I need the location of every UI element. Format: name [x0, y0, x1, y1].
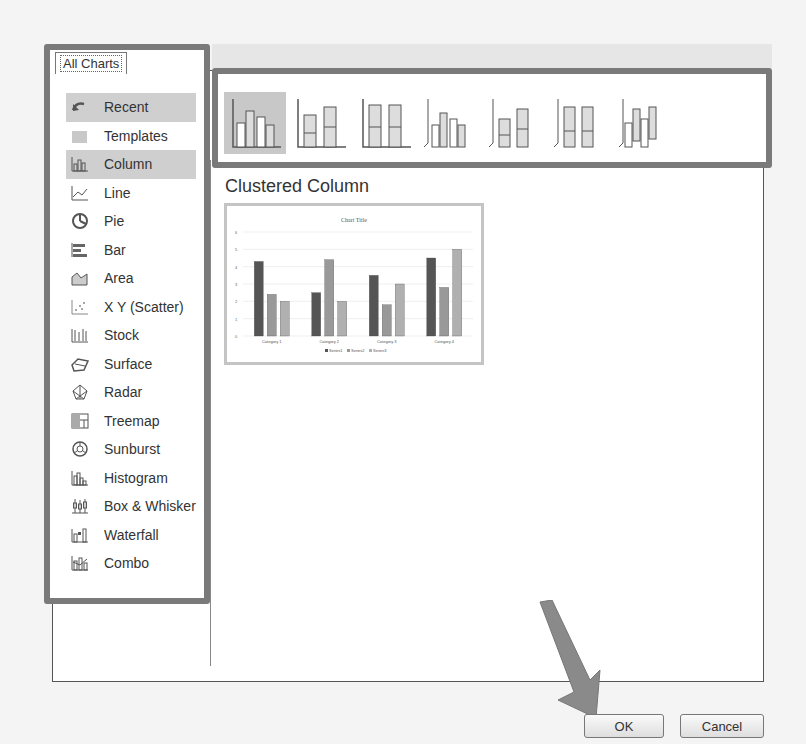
templates-icon	[70, 127, 90, 145]
sidebar-item-recent[interactable]: Recent	[66, 93, 196, 122]
sidebar-item-pie[interactable]: Pie	[66, 207, 196, 236]
svg-text:0: 0	[235, 334, 238, 339]
cancel-button[interactable]: Cancel	[680, 714, 764, 738]
sidebar-item-waterfall[interactable]: Waterfall	[66, 521, 196, 550]
svg-text:3: 3	[235, 282, 238, 287]
sidebar-item-label: Column	[104, 156, 152, 172]
sidebar-item-column[interactable]: Column	[66, 150, 196, 179]
chart-preview[interactable]: Chart Title0123456Category 1Category 2Ca…	[224, 203, 484, 365]
sidebar-item-sunburst[interactable]: Sunburst	[66, 435, 196, 464]
subtype-3d-stacked-column[interactable]	[484, 92, 546, 154]
svg-text:6: 6	[235, 230, 238, 235]
sidebar-item-templates[interactable]: Templates	[66, 122, 196, 151]
pie-chart-icon	[70, 212, 90, 230]
svg-text:Category 4: Category 4	[434, 339, 454, 344]
sidebar-item-label: Stock	[104, 327, 139, 343]
chart-category-list: RecentTemplatesColumnLinePieBarAreaX Y (…	[66, 93, 196, 578]
sidebar-item-label: Bar	[104, 242, 126, 258]
tab-all-charts[interactable]: All Charts	[55, 52, 127, 74]
recent-icon	[70, 98, 90, 116]
line-chart-icon	[70, 184, 90, 202]
svg-text:Chart Title: Chart Title	[341, 217, 367, 223]
svg-text:Series1: Series1	[329, 348, 343, 353]
3d-clustered-column-icon	[420, 93, 480, 153]
sidebar-item-treemap[interactable]: Treemap	[66, 407, 196, 436]
panel-divider	[210, 160, 211, 666]
sidebar-item-histogram[interactable]: Histogram	[66, 464, 196, 493]
sidebar-item-combo[interactable]: Combo	[66, 549, 196, 578]
svg-text:2: 2	[235, 299, 238, 304]
chart-preview-graphic: Chart Title0123456Category 1Category 2Ca…	[227, 206, 481, 362]
3d-column-icon	[615, 93, 675, 153]
sidebar-item-area[interactable]: Area	[66, 264, 196, 293]
sidebar-item-surface[interactable]: Surface	[66, 350, 196, 379]
sidebar-item-line[interactable]: Line	[66, 179, 196, 208]
subtype-clustered-column[interactable]	[224, 92, 286, 154]
sidebar-item-label: Pie	[104, 213, 124, 229]
box-whisker-chart-icon	[70, 497, 90, 515]
stock-chart-icon	[70, 326, 90, 344]
3d-stacked-column-icon	[485, 93, 545, 153]
sidebar-item-radar[interactable]: Radar	[66, 378, 196, 407]
sidebar-item-bar[interactable]: Bar	[66, 236, 196, 265]
svg-text:Series3: Series3	[373, 348, 387, 353]
sidebar-item-label: Waterfall	[104, 527, 159, 543]
sidebar-item-x-y-scatter[interactable]: X Y (Scatter)	[66, 293, 196, 322]
sidebar-item-label: Templates	[104, 128, 168, 144]
area-chart-icon	[70, 269, 90, 287]
column-chart-icon	[70, 155, 90, 173]
dialog-top-strip	[212, 44, 772, 68]
clustered-column-icon	[225, 93, 285, 153]
svg-text:Category 3: Category 3	[377, 339, 397, 344]
sidebar-item-label: X Y (Scatter)	[104, 299, 184, 315]
subtype-3d-100-stacked-column[interactable]	[549, 92, 611, 154]
svg-text:4: 4	[235, 265, 238, 270]
svg-text:Category 1: Category 1	[262, 339, 282, 344]
sidebar-item-label: Combo	[104, 555, 149, 571]
sidebar-item-label: Box & Whisker	[104, 498, 196, 514]
radar-chart-icon	[70, 383, 90, 401]
subtype-100-stacked-column[interactable]	[354, 92, 416, 154]
3d-100-stacked-column-icon	[550, 93, 610, 153]
sidebar-item-label: Line	[104, 185, 130, 201]
sidebar-item-label: Surface	[104, 356, 152, 372]
combo-chart-icon	[70, 554, 90, 572]
waterfall-chart-icon	[70, 526, 90, 544]
chart-subtype-gallery	[224, 92, 679, 154]
sidebar-item-box-whisker[interactable]: Box & Whisker	[66, 492, 196, 521]
sidebar-item-label: Area	[104, 270, 134, 286]
ok-button[interactable]: OK	[584, 714, 664, 738]
sunburst-chart-icon	[70, 440, 90, 458]
bar-chart-icon	[70, 241, 90, 259]
sidebar-item-stock[interactable]: Stock	[66, 321, 196, 350]
pointer-arrow-annotation	[530, 600, 620, 720]
svg-text:1: 1	[235, 317, 238, 322]
treemap-chart-icon	[70, 412, 90, 430]
subtype-3d-clustered-column[interactable]	[419, 92, 481, 154]
100-stacked-column-icon	[355, 93, 415, 153]
sidebar-item-label: Recent	[104, 99, 148, 115]
sidebar-item-label: Treemap	[104, 413, 160, 429]
subtype-3d-column[interactable]	[614, 92, 676, 154]
surface-chart-icon	[70, 355, 90, 373]
subtype-stacked-column[interactable]	[289, 92, 351, 154]
scatter-chart-icon	[70, 298, 90, 316]
stacked-column-icon	[290, 93, 350, 153]
sidebar-item-label: Sunburst	[104, 441, 160, 457]
sidebar-item-label: Radar	[104, 384, 142, 400]
svg-text:5: 5	[235, 247, 238, 252]
svg-text:Series2: Series2	[351, 348, 365, 353]
sidebar-item-label: Histogram	[104, 470, 168, 486]
svg-text:Category 2: Category 2	[319, 339, 339, 344]
histogram-chart-icon	[70, 469, 90, 487]
chart-subtype-heading: Clustered Column	[225, 176, 369, 197]
